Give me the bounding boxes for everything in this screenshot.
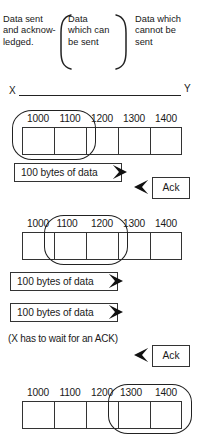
segment-cell bbox=[118, 127, 150, 155]
sequence-number-label: 1200 bbox=[86, 217, 118, 230]
send-arrow-notch-icon bbox=[109, 305, 115, 319]
sequence-number-label: 1300 bbox=[118, 386, 150, 399]
axis-label-x: X bbox=[9, 85, 16, 96]
sequence-number-label: 1400 bbox=[150, 112, 182, 125]
segment-strip-initial: 10001100120013001400 bbox=[0, 112, 200, 158]
segment-cell bbox=[150, 401, 182, 429]
segment-cell bbox=[118, 401, 150, 429]
send-arrow-notch-icon bbox=[113, 165, 119, 179]
sequence-number-label: 1300 bbox=[118, 217, 150, 230]
legend-data-which-cannot-be-sent: Data which cannot be sent bbox=[135, 14, 195, 48]
segment-strip-slid: 10001100120013001400 bbox=[0, 217, 200, 263]
sequence-number-label: 1000 bbox=[22, 386, 54, 399]
sequence-number-row: 10001100120013001400 bbox=[0, 112, 200, 126]
data-packet-box: 100 bytes of data bbox=[14, 163, 122, 182]
x-to-y-axis: X Y bbox=[0, 83, 200, 101]
segment-cell bbox=[54, 401, 86, 429]
sequence-number-label: 1100 bbox=[54, 386, 86, 399]
data-packet-box: 100 bytes of data bbox=[10, 272, 118, 291]
segment-cell bbox=[150, 127, 182, 155]
segment-cell-row bbox=[22, 401, 182, 429]
sequence-number-label: 1400 bbox=[150, 217, 182, 230]
segment-cell bbox=[22, 401, 54, 429]
ack-arrow-notch-icon bbox=[142, 348, 148, 362]
segment-cell bbox=[54, 127, 86, 155]
wait-for-ack-note: (X has to wait for an ACK) bbox=[8, 333, 118, 344]
ack-arrow-notch-icon bbox=[142, 180, 148, 194]
sequence-number-label: 1400 bbox=[150, 386, 182, 399]
segment-cell bbox=[118, 232, 150, 260]
right-brace-icon bbox=[114, 13, 130, 71]
segment-cell-row bbox=[22, 232, 182, 260]
legend-data-sent-acknowledged: Data sent and acknow- ledged. bbox=[3, 14, 59, 48]
sequence-number-label: 1100 bbox=[54, 217, 86, 230]
sequence-number-label: 1300 bbox=[118, 112, 150, 125]
axis-line bbox=[19, 95, 181, 96]
ack-box: Ack bbox=[152, 345, 190, 367]
data-packet-box: 100 bytes of data bbox=[10, 303, 118, 322]
sequence-number-label: 1200 bbox=[86, 112, 118, 125]
ack-box: Ack bbox=[152, 177, 190, 199]
send-arrow-notch-icon bbox=[109, 274, 115, 288]
segment-cell bbox=[86, 127, 118, 155]
segment-cell bbox=[22, 232, 54, 260]
segment-cell-row bbox=[22, 127, 182, 155]
segment-cell bbox=[150, 232, 182, 260]
axis-label-y: Y bbox=[184, 83, 191, 94]
legend-data-which-can-be-sent: Data which can be sent bbox=[68, 14, 112, 48]
sequence-number-row: 10001100120013001400 bbox=[0, 386, 200, 400]
sequence-number-row: 10001100120013001400 bbox=[0, 217, 200, 231]
segment-cell bbox=[86, 232, 118, 260]
sequence-number-label: 1100 bbox=[54, 112, 86, 125]
segment-strip-final: 10001100120013001400 bbox=[0, 386, 200, 432]
segment-cell bbox=[22, 127, 54, 155]
sequence-number-label: 1000 bbox=[22, 217, 54, 230]
sequence-number-label: 1200 bbox=[86, 386, 118, 399]
segment-cell bbox=[54, 232, 86, 260]
sequence-number-label: 1000 bbox=[22, 112, 54, 125]
segment-cell bbox=[86, 401, 118, 429]
